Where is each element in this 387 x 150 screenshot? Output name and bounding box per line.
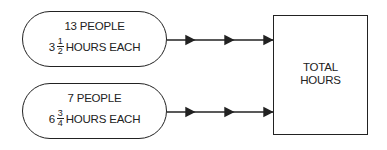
input-group-1: 13 PEOPLE 3 1 2 HOURS EACH: [22, 11, 167, 67]
hours-each-1: 3 1 2 HOURS EACH: [23, 37, 166, 56]
fraction-denominator-1: 2: [58, 47, 63, 56]
people-count-2: 7 PEOPLE: [23, 92, 166, 104]
fraction-denominator-2: 4: [58, 119, 63, 128]
total-hours-label: TOTAL HOURS: [274, 61, 367, 87]
people-count-1: 13 PEOPLE: [23, 20, 166, 32]
hours-each-2: 6 3 4 HOURS EACH: [23, 109, 166, 128]
hours-suffix-1: HOURS EACH: [66, 41, 141, 53]
hours-fraction-1: 1 2: [57, 37, 64, 56]
hours-suffix-2: HOURS EACH: [66, 113, 141, 125]
total-hours-box: TOTAL HOURS: [273, 15, 368, 135]
total-label-line2: HOURS: [274, 74, 367, 87]
hours-whole-2: 6: [49, 113, 55, 125]
hours-whole-1: 3: [49, 41, 55, 53]
total-label-line1: TOTAL: [274, 61, 367, 74]
input-group-2: 7 PEOPLE 6 3 4 HOURS EACH: [22, 83, 167, 139]
hours-fraction-2: 3 4: [57, 109, 64, 128]
